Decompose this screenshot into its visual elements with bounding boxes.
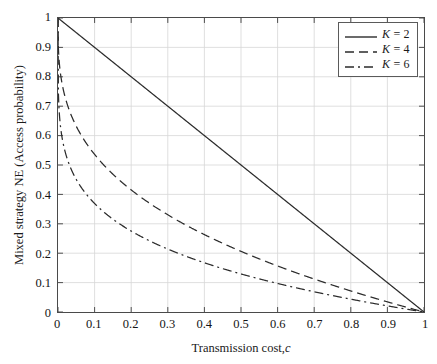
legend-line-sample <box>344 44 378 56</box>
x-axis-title-variable: c <box>285 341 291 355</box>
x-tick-label: 1 <box>422 318 428 331</box>
x-tick-label: 0.6 <box>270 318 286 331</box>
x-tick-label: 0.2 <box>123 318 139 331</box>
y-tick-label: 1 <box>11 11 51 24</box>
legend-label-variable: K <box>382 27 390 41</box>
legend-item[interactable]: K = 6 <box>344 57 410 72</box>
x-tick-label: 0 <box>54 318 60 331</box>
y-axis-title: Mixed strategy NE (Access probability) <box>12 45 27 285</box>
legend-label: K = 4 <box>382 42 410 57</box>
x-tick-label: 0.5 <box>233 318 249 331</box>
x-tick-label: 0.8 <box>344 318 360 331</box>
chart-figure: 00.10.20.30.40.50.60.70.80.91 00.10.20.3… <box>0 0 437 364</box>
x-tick-label: 0.3 <box>160 318 176 331</box>
y-tick-label: 0 <box>11 307 51 320</box>
legend-label: K = 2 <box>382 27 410 42</box>
legend-label-variable: K <box>382 57 390 71</box>
legend-line-sample <box>344 59 378 71</box>
legend: K = 2K = 4K = 6 <box>338 22 418 77</box>
x-axis-title: Transmission cost,c <box>57 341 425 356</box>
legend-label-variable: K <box>382 42 390 56</box>
legend-label: K = 6 <box>382 57 410 72</box>
legend-item[interactable]: K = 2 <box>344 27 410 42</box>
x-tick-label: 0.7 <box>307 318 323 331</box>
x-axis-title-text: Transmission cost, <box>192 341 285 355</box>
x-tick-label: 0.1 <box>86 318 102 331</box>
x-tick-label: 0.9 <box>380 318 396 331</box>
legend-line-sample <box>344 29 378 41</box>
x-tick-label: 0.4 <box>196 318 212 331</box>
legend-item[interactable]: K = 4 <box>344 42 410 57</box>
